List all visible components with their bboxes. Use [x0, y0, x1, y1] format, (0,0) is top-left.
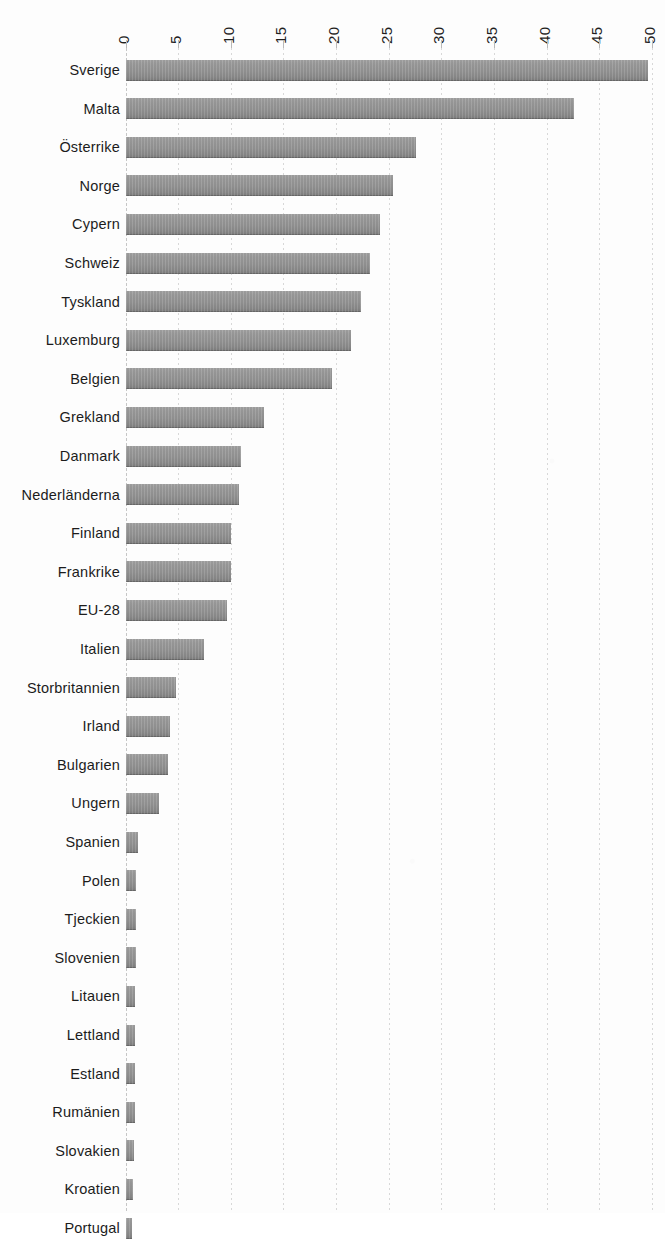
x-axis-tick-label: 50	[641, 26, 658, 44]
bar	[126, 407, 265, 428]
bar-row: Polen	[0, 862, 665, 901]
bar-row: Slovenien	[0, 939, 665, 978]
x-axis-tick-mark	[599, 40, 600, 48]
bar	[126, 909, 137, 930]
bar-row: Tjeckien	[0, 900, 665, 939]
bar	[126, 368, 332, 389]
bar-row: Österrike	[0, 128, 665, 167]
bar-row: Bulgarien	[0, 746, 665, 785]
x-axis-tick-label: 10	[220, 26, 237, 44]
bar-row: Slovakien	[0, 1132, 665, 1171]
bar-row: Nederländerna	[0, 476, 665, 515]
bar-row: Cypern	[0, 205, 665, 244]
category-label: Luxemburg	[46, 321, 120, 360]
x-axis-tick-mark	[389, 40, 390, 48]
x-axis-tick-label: 30	[430, 26, 447, 44]
bar	[126, 832, 139, 853]
bar-row: Spanien	[0, 823, 665, 862]
x-axis-tick-mark	[126, 40, 127, 48]
category-label: Norge	[80, 167, 121, 206]
bar	[126, 484, 240, 505]
category-label: Kroatien	[64, 1170, 120, 1209]
bar-row: Irland	[0, 707, 665, 746]
bar	[126, 716, 170, 737]
category-label: Finland	[71, 514, 120, 553]
bar	[126, 214, 381, 235]
bar-row: Belgien	[0, 360, 665, 399]
x-axis-tick-label: 25	[378, 26, 395, 44]
x-axis-tick-mark	[441, 40, 442, 48]
bar-row: EU-28	[0, 591, 665, 630]
x-axis-tick-label: 45	[588, 26, 605, 44]
category-label: Sverige	[69, 51, 120, 90]
bar-row: Danmark	[0, 437, 665, 476]
bar-row: Schweiz	[0, 244, 665, 283]
bar-row: Portugal	[0, 1209, 665, 1243]
plot-area: SverigeMaltaÖsterrikeNorgeCypernSchweizT…	[0, 48, 665, 1213]
x-axis-tick-mark	[231, 40, 232, 48]
bar	[126, 754, 168, 775]
category-label: Rumänien	[52, 1093, 120, 1132]
bar	[126, 1102, 135, 1123]
bar-row: Luxemburg	[0, 321, 665, 360]
category-label: Slovenien	[55, 939, 121, 978]
bar-row: Italien	[0, 630, 665, 669]
bar	[126, 947, 137, 968]
bar-row: Tyskland	[0, 283, 665, 322]
bar	[126, 561, 231, 582]
bar	[126, 253, 370, 274]
bar-row: Norge	[0, 167, 665, 206]
bar	[126, 986, 135, 1007]
category-label: Schweiz	[65, 244, 120, 283]
category-label: Danmark	[60, 437, 120, 476]
bar-row: Grekland	[0, 398, 665, 437]
category-label: Cypern	[72, 205, 120, 244]
x-axis-tick-mark	[336, 40, 337, 48]
category-label: Nederländerna	[21, 476, 120, 515]
bar	[126, 175, 393, 196]
bar-row: Estland	[0, 1055, 665, 1094]
category-label: Litauen	[71, 977, 120, 1016]
x-axis-tick-label: 15	[272, 26, 289, 44]
bar	[126, 60, 648, 81]
bar-row: Malta	[0, 90, 665, 129]
bar	[126, 98, 575, 119]
x-axis-tick-mark	[652, 40, 653, 48]
category-label: Grekland	[60, 398, 120, 437]
bar	[126, 523, 231, 544]
bar	[126, 330, 351, 351]
category-label: Österrike	[59, 128, 120, 167]
bar-row: Frankrike	[0, 553, 665, 592]
category-label: Irland	[83, 707, 120, 746]
bar	[126, 677, 177, 698]
category-label: Ungern	[71, 784, 120, 823]
x-axis-tick-mark	[283, 40, 284, 48]
bar-row: Kroatien	[0, 1170, 665, 1209]
category-label: Spanien	[65, 823, 120, 862]
bar-row: Rumänien	[0, 1093, 665, 1132]
bar	[126, 639, 205, 660]
x-axis-tick-label: 40	[536, 26, 553, 44]
bar-row: Litauen	[0, 977, 665, 1016]
bar-row: Finland	[0, 514, 665, 553]
bar	[126, 137, 417, 158]
bar	[126, 446, 242, 467]
category-label: EU-28	[78, 591, 120, 630]
bar	[126, 1179, 133, 1200]
x-axis-tick-label: 35	[483, 26, 500, 44]
bar-row: Ungern	[0, 784, 665, 823]
bar	[126, 1218, 132, 1239]
bar	[126, 1140, 134, 1161]
bar-row: Lettland	[0, 1016, 665, 1055]
bar	[126, 1025, 135, 1046]
bar	[126, 870, 137, 891]
bar-row: Sverige	[0, 51, 665, 90]
x-axis-tick-label: 20	[325, 26, 342, 44]
category-label: Estland	[70, 1055, 120, 1094]
x-axis-tick-label: 0	[115, 35, 132, 44]
x-axis: 05101520253035404550	[0, 0, 665, 48]
bar	[126, 1063, 135, 1084]
x-axis-tick-mark	[178, 40, 179, 48]
category-label: Belgien	[70, 360, 120, 399]
